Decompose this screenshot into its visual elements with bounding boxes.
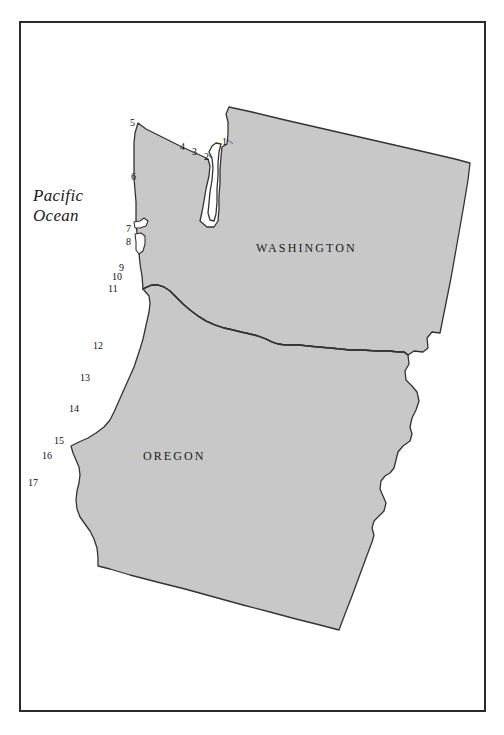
coastal-marker-10: 10: [112, 272, 122, 282]
coastal-marker-17: 17: [28, 478, 38, 488]
coastal-marker-8: 8: [126, 237, 131, 247]
map-page: Pacific Ocean WASHINGTON OREGON 1 2 3 4 …: [0, 0, 504, 735]
coastal-marker-2: 2: [204, 152, 209, 162]
pacific-northwest-map-graphic: [0, 0, 504, 735]
coastal-marker-14: 14: [69, 404, 79, 414]
landmass-group: [71, 107, 470, 630]
coastal-marker-6: 6: [131, 172, 136, 182]
coastal-marker-3: 3: [192, 147, 197, 157]
coastal-marker-4: 4: [180, 142, 185, 152]
coastal-marker-11: 11: [108, 284, 118, 294]
coastal-marker-13: 13: [80, 373, 90, 383]
coastal-marker-12: 12: [93, 341, 103, 351]
coastal-marker-1: 1: [222, 137, 227, 147]
coastal-marker-16: 16: [42, 451, 52, 461]
coastal-marker-7: 7: [126, 224, 131, 234]
coastal-marker-15: 15: [54, 436, 64, 446]
coastal-marker-5: 5: [130, 118, 135, 128]
washington-coastal-notch-willapa-bay: [135, 233, 145, 254]
